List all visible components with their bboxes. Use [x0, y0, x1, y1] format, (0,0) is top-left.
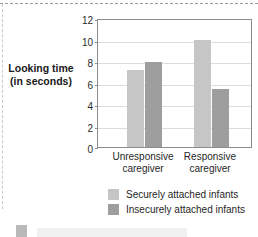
- legend-swatch-icon: [108, 204, 119, 215]
- bar: [194, 40, 211, 148]
- y-axis-tick: [95, 63, 98, 64]
- y-axis-tick: [95, 106, 98, 107]
- y-axis-tick-label: 12: [82, 15, 93, 26]
- x-axis-label-1-line2: caregiver: [168, 163, 252, 175]
- legend-label: Securely attached infants: [126, 189, 238, 200]
- y-axis-tick: [95, 128, 98, 129]
- y-axis-title-line2: (in seconds): [0, 75, 82, 88]
- top-divider: [0, 3, 258, 4]
- y-axis-tick: [95, 148, 98, 149]
- legend-label: Insecurely attached infants: [126, 204, 245, 215]
- bar: [212, 89, 229, 147]
- left-divider: [2, 4, 3, 209]
- y-axis-tick-label: 10: [82, 36, 93, 47]
- y-axis-tick-label: 0: [87, 144, 93, 155]
- y-axis-tick: [95, 42, 98, 43]
- plot-area: 024681012: [97, 19, 252, 148]
- bottom-swatch-icon: [16, 225, 27, 237]
- chart-figure: Looking time (in seconds) 024681012 Unre…: [0, 0, 258, 237]
- chart-legend: Securely attached infantsInsecurely atta…: [108, 187, 245, 217]
- bar: [145, 62, 162, 147]
- legend-item: Insecurely attached infants: [108, 202, 245, 217]
- x-axis-label-1-line1: Responsive: [168, 151, 252, 163]
- y-axis-tick: [95, 85, 98, 86]
- y-axis-tick-label: 6: [87, 79, 93, 90]
- bar: [127, 70, 144, 147]
- legend-item: Securely attached infants: [108, 187, 245, 202]
- bar-group: [127, 20, 162, 147]
- x-axis-label-1: Responsive caregiver: [168, 151, 252, 175]
- y-axis-tick-label: 8: [87, 58, 93, 69]
- y-axis-tick-label: 4: [87, 101, 93, 112]
- legend-swatch-icon: [108, 189, 119, 200]
- bottom-placeholder-bar: [37, 228, 187, 237]
- bar-group: [194, 20, 229, 147]
- y-axis-title-line1: Looking time: [0, 62, 82, 75]
- y-axis-title: Looking time (in seconds): [0, 62, 82, 88]
- y-axis-tick-label: 2: [87, 122, 93, 133]
- y-axis-tick: [95, 20, 98, 21]
